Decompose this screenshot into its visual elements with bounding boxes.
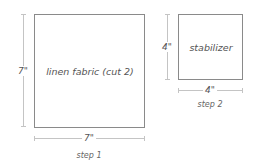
step-1-width-label: 7"	[82, 133, 96, 143]
step-2-height-tick-top	[165, 14, 170, 15]
step-1-height-label: 7"	[16, 66, 30, 76]
step-2-width-tick-left	[178, 88, 179, 93]
step-2-caption: step 2	[198, 100, 223, 109]
step-2-width-label: 4"	[203, 85, 217, 95]
step-1-height-tick-top	[21, 14, 26, 15]
step-2-height-tick-bottom	[165, 79, 170, 80]
step-2-height-label: 4"	[160, 42, 174, 52]
step-1-width-tick-right	[144, 136, 145, 141]
step-1-caption: step 1	[77, 151, 102, 160]
linen-fabric-label: linen fabric (cut 2)	[46, 66, 134, 77]
step-2-width-tick-right	[242, 88, 243, 93]
stabilizer-label: stabilizer	[189, 42, 232, 53]
step-1-height-tick-bottom	[21, 126, 26, 127]
step-1-width-tick-left	[34, 136, 35, 141]
